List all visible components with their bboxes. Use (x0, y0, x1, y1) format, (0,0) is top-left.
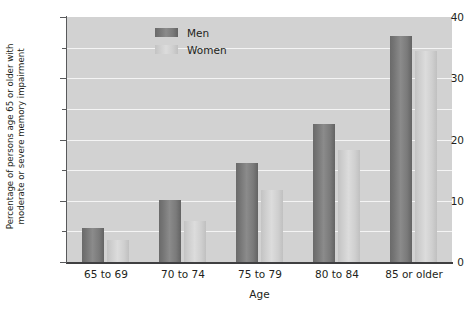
y-axis-tick (60, 78, 67, 79)
bar-men-1 (159, 200, 181, 262)
legend-label-women: Women (187, 44, 227, 56)
y-axis-title-line-2: moderate or severe memory impairment (17, 43, 28, 229)
x-axis-tick-label: 85 or older (369, 268, 459, 280)
plot-area (67, 17, 452, 262)
x-axis-title: Age (67, 288, 452, 300)
y-axis-tick-label: 40 (412, 11, 464, 23)
bar-women-2 (261, 190, 283, 262)
y-axis-tick-label: 30 (412, 72, 464, 84)
y-axis-minor-tick (62, 48, 67, 49)
bar-women-3 (338, 150, 360, 262)
y-axis-minor-tick (62, 231, 67, 232)
bar-chart-figure: Percentage of persons age 65 or older wi… (0, 0, 464, 314)
y-axis-tick (60, 262, 67, 263)
legend-item-men: Men (155, 24, 227, 41)
x-axis-line (66, 262, 453, 264)
y-axis-tick-label: 10 (412, 195, 464, 207)
y-axis-tick (60, 201, 67, 202)
bar-women-0 (107, 240, 129, 262)
bar-men-0 (82, 228, 104, 262)
bar-men-2 (236, 163, 258, 262)
bar-women-1 (184, 221, 206, 262)
legend-item-women: Women (155, 41, 227, 58)
legend-label-men: Men (187, 27, 209, 39)
bar-men-3 (313, 124, 335, 262)
y-axis-tick-label: 20 (412, 134, 464, 146)
men-swatch-icon (155, 28, 178, 37)
y-axis-minor-tick (62, 170, 67, 171)
chart-legend: Men Women (155, 24, 227, 58)
y-axis-title-line-1: Percentage of persons age 65 or older wi… (6, 43, 17, 229)
women-swatch-icon (155, 45, 178, 54)
bar-men-4 (390, 36, 412, 262)
y-axis-minor-tick (62, 109, 67, 110)
y-axis-title: Percentage of persons age 65 or older wi… (0, 0, 34, 272)
y-axis-tick-label: 0 (412, 256, 464, 268)
y-axis-tick (60, 140, 67, 141)
y-axis-tick (60, 17, 67, 18)
